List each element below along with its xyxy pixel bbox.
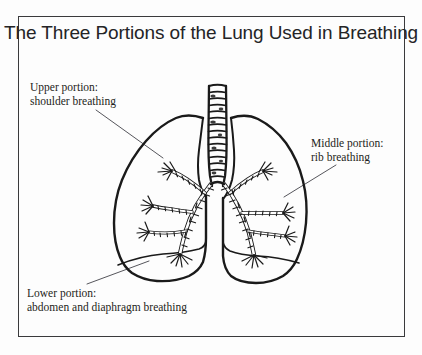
right-base-twigs <box>242 255 267 268</box>
left-base-twigs <box>167 254 192 267</box>
figure-page: The Three Portions of the Lung Used in B… <box>0 0 422 355</box>
right-lower-lateral-twigs <box>285 226 297 245</box>
bronchial-tree <box>137 162 297 268</box>
leader-line-middle <box>284 165 336 197</box>
left-lower-lateral-twigs <box>137 222 149 241</box>
trachea-rings <box>209 92 227 177</box>
label-upper-portion: Upper portion: shoulder breathing <box>30 80 116 108</box>
right-mid-twigs <box>283 203 295 221</box>
label-middle-portion: Middle portion: rib breathing <box>311 136 384 164</box>
label-upper-line1: Upper portion: <box>30 81 98 93</box>
label-lower-line1: Lower portion: <box>27 287 96 299</box>
left-lung <box>114 116 206 282</box>
left-mid-twigs <box>141 196 153 214</box>
label-middle-line2: rib breathing <box>311 150 384 164</box>
label-lower-line2: abdomen and diaphragm breathing <box>27 300 187 314</box>
label-lower-portion: Lower portion: abdomen and diaphragm bre… <box>27 286 187 314</box>
label-middle-line1: Middle portion: <box>311 137 384 149</box>
left-bronchus <box>137 162 214 267</box>
trachea <box>208 85 226 186</box>
label-upper-line2: shoulder breathing <box>30 94 116 108</box>
